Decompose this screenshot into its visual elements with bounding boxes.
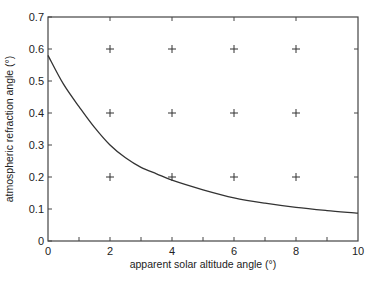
- x-tick-label: 10: [352, 245, 364, 257]
- y-axis-ticks: 00.10.20.30.40.50.60.7: [29, 11, 358, 247]
- y-tick-label: 0.4: [29, 107, 44, 119]
- y-tick-label: 0.7: [29, 11, 44, 23]
- x-tick-label: 2: [107, 245, 113, 257]
- refraction-chart: 0246810 00.10.20.30.40.50.60.7 apparent …: [0, 0, 378, 281]
- plot-frame: [48, 17, 358, 241]
- crosshair-grid-marks: [106, 45, 300, 181]
- y-tick-label: 0.6: [29, 43, 44, 55]
- y-tick-label: 0.2: [29, 171, 44, 183]
- x-axis-label: apparent solar altitude angle (°): [130, 258, 277, 270]
- refraction-curve: [48, 55, 358, 213]
- y-tick-label: 0: [38, 235, 44, 247]
- x-tick-label: 8: [293, 245, 299, 257]
- plot-border: [48, 17, 358, 241]
- y-tick-label: 0.5: [29, 75, 44, 87]
- y-axis-label: atmospheric refraction angle (°): [3, 56, 15, 203]
- x-tick-label: 4: [169, 245, 175, 257]
- x-axis-ticks: 0246810: [45, 17, 364, 257]
- x-tick-label: 6: [231, 245, 237, 257]
- y-tick-label: 0.3: [29, 139, 44, 151]
- x-tick-label: 0: [45, 245, 51, 257]
- y-tick-label: 0.1: [29, 203, 44, 215]
